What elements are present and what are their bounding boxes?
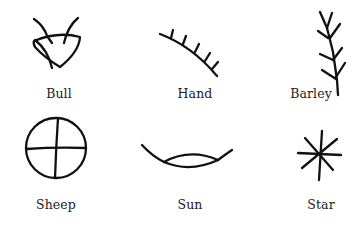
label-star: Star bbox=[307, 197, 334, 212]
pictograph-figure: Bull Hand Barley Sheep Sun bbox=[0, 0, 357, 225]
star-icon bbox=[0, 0, 357, 225]
